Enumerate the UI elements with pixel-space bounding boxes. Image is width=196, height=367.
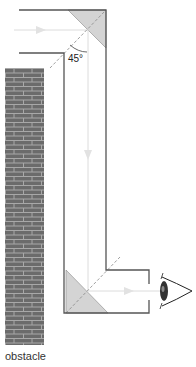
ray-arrow-right-bottom — [124, 287, 134, 295]
obstacle-label: obstacle — [5, 350, 46, 362]
eye-icon — [160, 273, 192, 309]
brick-wall — [5, 68, 44, 345]
angle-arc — [70, 45, 87, 52]
periscope-diagram — [0, 0, 196, 367]
angle-label: 45° — [68, 53, 83, 64]
ray-arrow-down — [84, 150, 92, 160]
ray-arrow-right-top — [36, 26, 46, 34]
